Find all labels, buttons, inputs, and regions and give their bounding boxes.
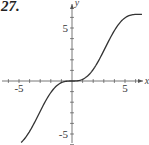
y-axis-arrow-icon <box>70 4 74 9</box>
axes <box>2 4 143 143</box>
y-tick-label: -5 <box>59 128 69 140</box>
x-axis-arrow-icon <box>138 79 143 83</box>
tick-labels: -555-5xy <box>14 0 149 140</box>
x-axis-label: x <box>144 75 149 86</box>
x-tick-label: -5 <box>14 82 24 94</box>
x-tick-label: 5 <box>122 82 128 94</box>
y-axis-label: y <box>74 0 80 8</box>
function-curve <box>21 14 142 142</box>
function-plot: -555-5xy <box>0 0 149 145</box>
y-tick-label: 5 <box>63 22 69 34</box>
